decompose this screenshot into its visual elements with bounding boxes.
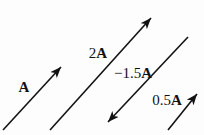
vector-label-prefix: 0.5 <box>152 92 171 108</box>
vector-a: A <box>3 67 61 130</box>
vector-diagram-svg: A2A−1.5A0.5A <box>0 0 204 135</box>
vector-0-5a: 0.5A <box>152 92 197 130</box>
vector-label-0-5a: 0.5A <box>152 92 182 108</box>
vector-label-a: A <box>19 79 30 95</box>
vector-label-symbol: A <box>96 45 107 61</box>
vector-label-symbol: A <box>141 65 152 81</box>
vector-label-symbol: A <box>19 79 30 95</box>
vector-minus-1-5a: −1.5A <box>108 37 188 122</box>
vector-line-a <box>3 67 61 130</box>
vector-label-prefix: −1.5 <box>114 65 141 81</box>
vector-label-2a: 2A <box>89 45 108 61</box>
vector-label-symbol: A <box>171 92 182 108</box>
vector-label-prefix: 2 <box>89 45 97 61</box>
vector-label-minus-1-5a: −1.5A <box>114 65 152 81</box>
vector-diagram: A2A−1.5A0.5A <box>0 0 204 135</box>
